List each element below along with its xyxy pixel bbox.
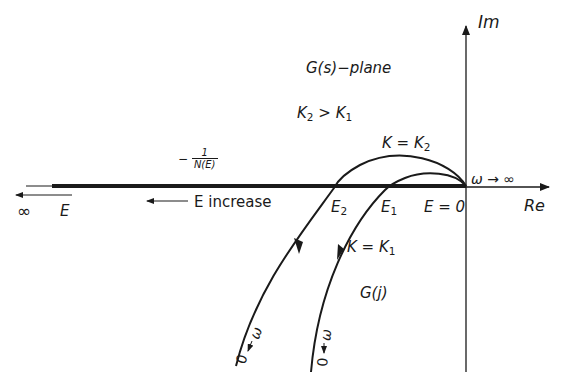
k2-direction-arrow-icon [294, 238, 303, 254]
diagram-canvas [0, 0, 574, 386]
omega-infinity-label: ω → ∞ [471, 172, 515, 186]
fraction-denominator: N(E) [192, 159, 218, 170]
e2-sub: 2 [340, 205, 347, 217]
e1-sub: 1 [390, 205, 397, 217]
e-label: E [60, 204, 69, 219]
curve-k1-label: K = K1 [347, 240, 395, 257]
real-axis-label: Re [524, 198, 545, 214]
plane-label: G(s)−plane [306, 61, 391, 76]
intersection-e0-label: E = 0 [424, 200, 465, 215]
omega-zero-arrow-k2 [248, 341, 252, 351]
negative-sign: − [178, 152, 188, 166]
k2-subscript: 2 [307, 111, 314, 123]
curve-k2-label-text: K = K [382, 134, 424, 152]
imaginary-axis-label: Im [478, 14, 500, 31]
zero-label-k1: 0 [315, 357, 330, 367]
curve-k2-label-sub: 2 [424, 141, 431, 153]
greater-than-symbol: > [318, 104, 331, 122]
k1-symbol: K [336, 104, 346, 122]
curve-k1-label-sub: 1 [389, 245, 396, 257]
intersection-e2-label: E2 [331, 200, 347, 217]
curve-k2-label: K = K2 [382, 136, 430, 153]
nyquist-label: G(j) [360, 286, 388, 301]
k1-subscript: 1 [346, 111, 353, 123]
curve-k1-label-text: K = K [347, 238, 389, 256]
fraction: 1 N(E) [192, 148, 218, 170]
describing-function-diagram: Im Re ω → ∞ G(s)−plane K2 > K1 K = K2 K … [0, 0, 574, 386]
intersection-e1-label: E1 [381, 200, 397, 217]
k2-symbol: K [297, 104, 307, 122]
describing-function-label: − 1 N(E) [178, 148, 218, 170]
omega-label-k1: ω [318, 329, 333, 342]
gain-relation-label: K2 > K1 [297, 106, 352, 123]
fraction-numerator: 1 [192, 148, 218, 159]
infinity-label: ∞ [17, 203, 31, 220]
e-increase-label: E increase [194, 195, 271, 210]
